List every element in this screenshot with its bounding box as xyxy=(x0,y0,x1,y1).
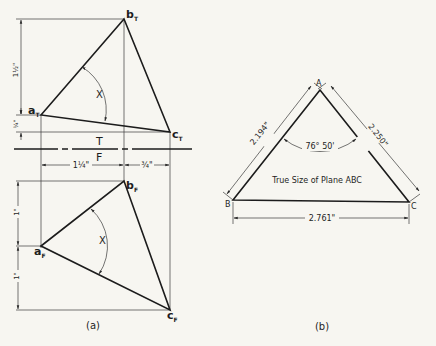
dim-horizontal-left: 1¼" xyxy=(73,161,90,170)
dim-upper-front: 1" xyxy=(13,208,21,216)
view-b: 2.194" 2.250" 2.761" 76° 50' True Size o… xyxy=(223,79,420,332)
dim-horizontal-right: ¾" xyxy=(141,161,152,170)
caption-a: (a) xyxy=(86,320,100,331)
point-b-front: bF xyxy=(126,179,138,193)
fold-label-front: F xyxy=(96,151,102,164)
ext-ac-c xyxy=(409,194,420,202)
angle-a-value: 76° 50' xyxy=(305,142,334,151)
caption-b: (b) xyxy=(315,321,329,332)
angle-label-front: X xyxy=(99,235,106,246)
true-size-title: True Size of Plane ABC xyxy=(271,176,362,185)
dim-bc: 2.761" xyxy=(309,214,336,223)
point-a-top: aT xyxy=(28,104,40,118)
fold-label-top: T xyxy=(95,135,103,148)
angle-label-top: X xyxy=(96,89,103,100)
dim-lower-top: ¼" xyxy=(12,119,19,128)
vertex-c: C xyxy=(411,202,417,211)
vertex-a: A xyxy=(316,79,322,88)
diagram-canvas: T F X bT aT cT 1½" ¼" 1¼" ¾" X bF aF cF … xyxy=(0,0,436,346)
point-b-top: bT xyxy=(126,8,139,22)
dim-upper-top: 1½" xyxy=(12,63,20,77)
point-c-top: cT xyxy=(172,128,184,142)
vertex-b: B xyxy=(225,200,231,209)
view-a: T F X bT aT cT 1½" ¼" 1¼" ¾" X bF aF cF … xyxy=(12,8,192,331)
triangle-top-view xyxy=(41,19,170,132)
dim-lower-front: 1" xyxy=(13,272,21,280)
point-c-front: cF xyxy=(167,309,178,323)
